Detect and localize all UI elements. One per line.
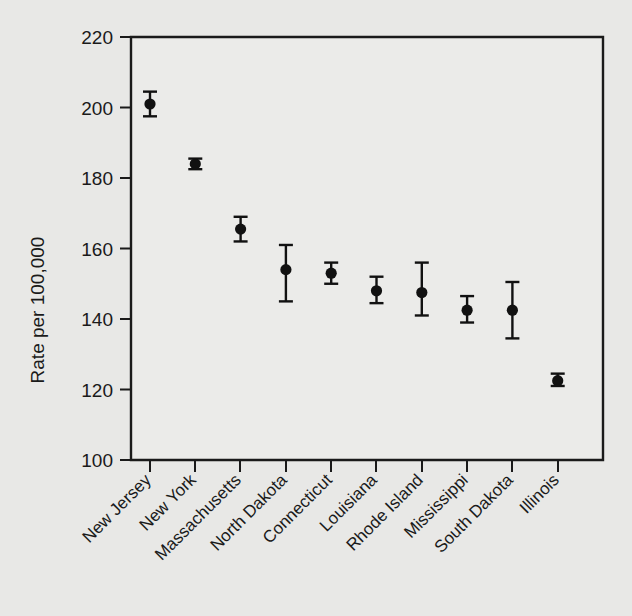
y-tick-label-200: 200 [81, 98, 113, 119]
data-point-marker [507, 305, 518, 316]
data-point-marker [280, 264, 291, 275]
y-tick-label-140: 140 [81, 309, 113, 330]
data-point-marker [462, 305, 473, 316]
data-point-marker [190, 158, 201, 169]
y-axis-title: Rate per 100,000 [27, 237, 48, 384]
data-point-marker [552, 375, 563, 386]
data-point-marker [416, 287, 427, 298]
data-point-marker [235, 224, 246, 235]
y-tick-label-100: 100 [81, 450, 113, 471]
data-point-marker [326, 268, 337, 279]
y-tick-label-220: 220 [81, 27, 113, 48]
plot-area-background [131, 37, 603, 460]
y-tick-label-160: 160 [81, 239, 113, 260]
rate-per-100000-dot-plot: Rate per 100,000 220 200 180 160 140 120… [0, 0, 632, 616]
y-tick-label-180: 180 [81, 168, 113, 189]
y-tick-label-120: 120 [81, 380, 113, 401]
data-point-marker [144, 98, 155, 109]
data-point-marker [371, 285, 382, 296]
